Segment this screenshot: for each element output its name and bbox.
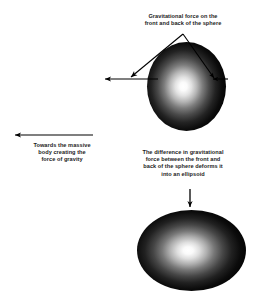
- caption-towards-massive-body: Towards the massive body creating the fo…: [4, 142, 120, 164]
- caption-difference-deforms-ellipsoid: The difference in gravitational force be…: [124, 149, 242, 178]
- caption-gravitational-force: Gravitational force on the front and bac…: [123, 13, 243, 27]
- ellipsoid-shape: [137, 210, 246, 291]
- leader-line-right: [183, 34, 214, 78]
- tidal-force-diagram: Gravitational force on the front and bac…: [0, 0, 254, 303]
- sphere-shape: [147, 42, 226, 131]
- leader-line-left: [131, 34, 183, 77]
